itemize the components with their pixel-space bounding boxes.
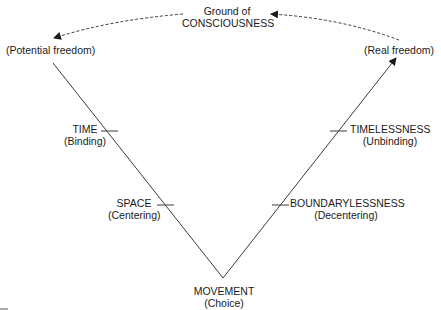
movement-label: MOVEMENT (Choice) [188, 285, 260, 309]
ground-of-text: Ground of [182, 5, 272, 17]
dashed-arrow-right [271, 14, 399, 40]
real-freedom-label: (Real freedom) [364, 44, 434, 56]
movement-title: MOVEMENT [188, 285, 260, 297]
time-subtitle: (Binding) [60, 135, 110, 147]
time-title: TIME [60, 123, 110, 135]
boundarylessness-label: BOUNDARYLESSNESS (Decentering) [290, 197, 402, 221]
consciousness-text: CONSCIOUSNESS [182, 17, 272, 29]
potential-freedom-label: (Potential freedom) [6, 44, 95, 56]
timelessness-subtitle: (Unbinding) [350, 135, 430, 147]
dashed-arrow-left [54, 14, 183, 38]
right-arrow-line [223, 58, 396, 278]
boundarylessness-subtitle: (Decentering) [290, 209, 402, 221]
boundarylessness-title: BOUNDARYLESSNESS [290, 197, 402, 209]
space-title: SPACE [108, 197, 160, 209]
real-freedom-text: (Real freedom) [364, 44, 434, 56]
ground-of-consciousness-label: Ground of CONSCIOUSNESS [182, 5, 272, 29]
potential-freedom-text: (Potential freedom) [6, 44, 95, 56]
movement-subtitle: (Choice) [188, 297, 260, 309]
left-line [53, 63, 223, 278]
timelessness-title: TIMELESSNESS [350, 123, 430, 135]
space-subtitle: (Centering) [108, 209, 160, 221]
timelessness-label: TIMELESSNESS (Unbinding) [350, 123, 430, 147]
space-label: SPACE (Centering) [108, 197, 160, 221]
time-label: TIME (Binding) [60, 123, 110, 147]
